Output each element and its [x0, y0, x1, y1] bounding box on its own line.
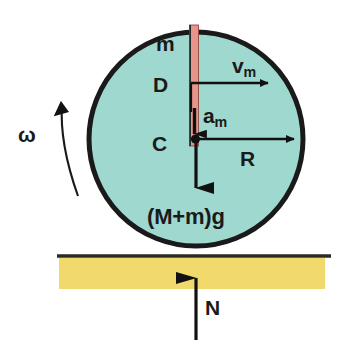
label-rod-mass: m	[156, 33, 174, 54]
diagram-canvas	[0, 0, 349, 345]
label-acceleration-symbol: a	[203, 104, 214, 127]
label-normal-force: N	[205, 297, 220, 318]
physics-diagram-figure: m D C vm am R (M+m)g ω N	[0, 0, 349, 345]
center-point-marker	[191, 134, 200, 143]
label-angular-velocity: ω	[18, 124, 36, 145]
ground-band	[59, 258, 325, 289]
label-radius: R	[240, 148, 255, 169]
label-rod-length: D	[153, 74, 168, 95]
angular-velocity-arrow	[62, 104, 78, 196]
label-center: C	[152, 133, 167, 154]
label-acceleration: am	[203, 105, 227, 129]
label-weight-force: (M+m)g	[147, 206, 225, 228]
label-acceleration-subscript: m	[214, 114, 226, 130]
label-velocity: vm	[232, 55, 256, 79]
label-velocity-symbol: v	[232, 54, 243, 77]
label-velocity-subscript: m	[243, 64, 255, 80]
